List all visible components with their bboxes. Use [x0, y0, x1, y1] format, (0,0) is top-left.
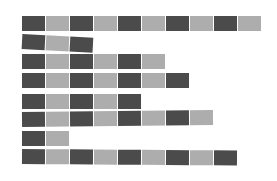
dark-block — [118, 54, 141, 69]
dark-block — [22, 131, 45, 146]
light-block — [190, 150, 213, 165]
light-block — [94, 73, 117, 88]
light-block — [190, 16, 213, 31]
light-block — [46, 35, 70, 51]
dark-block — [118, 111, 141, 126]
light-block — [94, 111, 117, 126]
dark-block — [70, 16, 93, 31]
dark-block — [214, 16, 237, 31]
light-block — [46, 94, 69, 109]
block-row-5 — [22, 94, 141, 109]
light-block — [94, 150, 117, 165]
dark-block — [118, 94, 141, 109]
dark-block — [166, 110, 189, 125]
light-block — [46, 131, 69, 146]
light-block — [46, 112, 69, 127]
light-block — [142, 16, 165, 31]
dark-block — [22, 94, 45, 109]
light-block — [142, 54, 165, 69]
dark-block — [22, 73, 45, 88]
light-block — [46, 149, 69, 164]
block-row-6 — [22, 110, 213, 127]
light-block — [238, 16, 261, 31]
dark-block — [214, 150, 237, 165]
dark-block — [22, 149, 45, 164]
dark-block — [166, 73, 189, 88]
light-block — [46, 16, 69, 31]
dark-block — [22, 54, 45, 69]
dark-block — [70, 111, 93, 126]
dark-block — [70, 54, 93, 69]
dark-block — [22, 112, 45, 127]
light-block — [94, 94, 117, 109]
dark-block — [166, 16, 189, 31]
light-block — [46, 73, 69, 88]
light-block — [94, 16, 117, 31]
dark-block — [118, 150, 141, 165]
light-block — [142, 73, 165, 88]
dark-block — [166, 150, 189, 165]
block-row-3 — [22, 54, 165, 69]
light-block — [190, 110, 213, 125]
dark-block — [118, 16, 141, 31]
light-block — [142, 111, 165, 126]
dark-block — [22, 16, 45, 31]
dark-block — [70, 94, 93, 109]
light-block — [142, 150, 165, 165]
dark-block — [22, 34, 46, 50]
dark-block — [70, 37, 94, 53]
block-row-8 — [22, 149, 237, 166]
light-block — [94, 54, 117, 69]
dark-block — [118, 73, 141, 88]
block-row-4 — [22, 73, 189, 88]
dark-block — [70, 73, 93, 88]
light-block — [46, 54, 69, 69]
block-row-2 — [22, 34, 94, 53]
block-row-7 — [22, 131, 69, 146]
block-row-1 — [22, 16, 261, 31]
dark-block — [70, 149, 93, 164]
